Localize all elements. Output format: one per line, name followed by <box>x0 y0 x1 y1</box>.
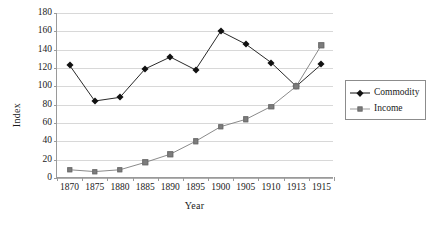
x-axis-tick-label: 1895 <box>186 183 205 193</box>
y-axis-tick-label: 20 <box>43 155 53 165</box>
data-point-income <box>92 169 98 175</box>
data-point-income <box>319 42 325 48</box>
y-axis-title: Index <box>11 103 22 127</box>
y-axis-tick-label: 0 <box>47 173 52 183</box>
x-axis-tick-label: 1900 <box>211 183 230 193</box>
data-point-income <box>218 124 224 130</box>
x-axis-tick-label: 1913 <box>287 183 306 193</box>
x-axis-tick-label: 1890 <box>161 183 180 193</box>
y-axis-tick-label: 120 <box>38 63 52 73</box>
legend-item-commodity[interactable]: Commodity <box>350 85 425 101</box>
data-point-income <box>293 84 299 90</box>
y-axis-tick-label: 40 <box>43 137 53 147</box>
x-axis-tick-label: 1910 <box>262 183 281 193</box>
square-marker-icon <box>350 104 370 114</box>
legend-label-income: Income <box>374 104 403 114</box>
data-point-income <box>193 139 199 145</box>
x-axis-tick-label: 1875 <box>85 183 104 193</box>
x-axis-tick-label: 1880 <box>110 183 129 193</box>
data-point-income <box>67 167 73 173</box>
x-axis-title: Year <box>56 200 333 211</box>
data-point-income <box>142 160 148 166</box>
legend-label-commodity: Commodity <box>374 88 419 98</box>
series-lines <box>57 13 334 178</box>
x-axis-tick-label: 1885 <box>136 183 155 193</box>
chart-legend: Commodity Income <box>345 80 426 120</box>
diamond-marker-icon <box>350 88 370 98</box>
legend-item-income[interactable]: Income <box>350 101 425 117</box>
y-axis-tick-label: 100 <box>38 82 52 92</box>
gridline <box>57 178 333 179</box>
series-line-income <box>70 45 322 172</box>
x-axis-tick-label: 1905 <box>236 183 255 193</box>
y-axis-tick-label: 180 <box>38 8 52 18</box>
data-point-income <box>168 151 174 157</box>
y-axis-tick-label: 80 <box>43 100 53 110</box>
data-point-income <box>243 117 249 123</box>
y-axis-tick-label: 160 <box>38 27 52 37</box>
line-chart: Index 020406080100120140160180 187018751… <box>0 0 432 230</box>
data-point-income <box>268 104 274 110</box>
x-axis-tick-label: 1915 <box>312 183 331 193</box>
y-axis-tick-label: 140 <box>38 45 52 55</box>
plot-area: 020406080100120140160180 187018751880188… <box>56 13 333 178</box>
y-axis-tick-label: 60 <box>43 118 53 128</box>
x-axis-tick-mark <box>334 177 335 181</box>
data-point-income <box>117 167 123 173</box>
x-axis-tick-label: 1870 <box>60 183 79 193</box>
